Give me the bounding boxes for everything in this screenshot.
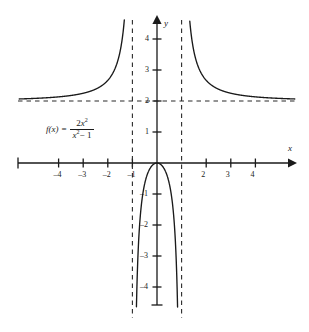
- curve-branch-left: [19, 20, 124, 99]
- x-tick-label: –3: [78, 171, 86, 179]
- x-tick-label: –1: [127, 171, 135, 179]
- fraction-denominator: x2− 1: [70, 130, 95, 140]
- curve-branch-right: [190, 21, 295, 99]
- denominator-rest: − 1: [80, 130, 92, 140]
- y-tick-label: 4: [145, 35, 149, 43]
- function-name: f(x): [46, 125, 59, 134]
- y-tick-label: –4: [140, 283, 148, 291]
- x-tick-label: 3: [226, 171, 230, 179]
- y-tick-label: –2: [140, 221, 148, 229]
- x-axis-arrowhead: [288, 158, 297, 167]
- fraction: 2x2 x2− 1: [70, 119, 95, 140]
- y-tick-label: 3: [145, 66, 149, 74]
- function-graph-figure: –4–3–2–1234 4321–1–2–3–4 x y f(x) = 2x2 …: [0, 0, 309, 332]
- x-tick-label: –4: [54, 171, 62, 179]
- y-axis-arrowhead: [152, 15, 161, 24]
- graph-canvas: [0, 0, 309, 332]
- numerator-exponent: 2: [85, 117, 88, 123]
- y-axis-label: y: [164, 19, 168, 28]
- equals-sign: =: [62, 125, 67, 134]
- y-tick-label: –1: [140, 190, 148, 198]
- x-tick-label: 4: [250, 171, 254, 179]
- fraction-numerator: 2x2: [73, 119, 91, 129]
- x-tick-label: –2: [103, 171, 111, 179]
- y-tick-label: –3: [140, 252, 148, 260]
- y-tick-label: 1: [145, 128, 149, 136]
- x-tick-label: 2: [201, 171, 205, 179]
- x-axis-label: x: [288, 144, 292, 153]
- function-equation-label: f(x) = 2x2 x2− 1: [46, 119, 94, 140]
- y-tick-label: 2: [145, 97, 149, 105]
